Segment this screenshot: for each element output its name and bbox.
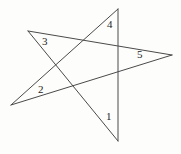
pentagram-drawing xyxy=(0,0,181,154)
angle-label-4: 4 xyxy=(107,19,113,30)
angle-label-5: 5 xyxy=(137,49,143,60)
angle-label-2: 2 xyxy=(38,84,44,95)
star-angles-figure: 1 2 3 4 5 xyxy=(0,0,181,154)
star-edge-group xyxy=(11,9,172,141)
angle-label-1: 1 xyxy=(106,111,112,122)
angle-label-3: 3 xyxy=(42,36,48,47)
star-edge-upper-left-to-right xyxy=(28,31,172,55)
star-edge-top-to-left xyxy=(11,9,118,105)
star-edge-left-to-right xyxy=(11,55,172,105)
